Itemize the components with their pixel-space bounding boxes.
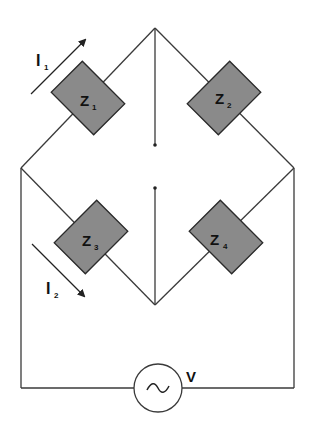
bridge-circuit: Z 1 Z 2 Z 3 Z 4 I 1 I 2 V [0, 0, 310, 432]
z3-label: Z [82, 232, 91, 249]
detector-terminal-top [153, 143, 157, 147]
i1-label: I [36, 52, 40, 69]
z4-label: Z [210, 231, 219, 248]
i2-subscript: 2 [54, 291, 59, 300]
impedance-z4 [189, 200, 263, 274]
z2-subscript: 2 [227, 101, 232, 110]
i1-subscript: 1 [44, 63, 49, 72]
voltage-label: V [186, 368, 196, 385]
z4-subscript: 4 [223, 242, 228, 251]
detector-terminal-bottom [153, 186, 157, 190]
z3-subscript: 3 [94, 243, 99, 252]
z1-subscript: 1 [92, 103, 97, 112]
i2-label: I [46, 280, 50, 297]
z1-label: Z [80, 92, 89, 109]
z2-label: Z [215, 90, 224, 107]
